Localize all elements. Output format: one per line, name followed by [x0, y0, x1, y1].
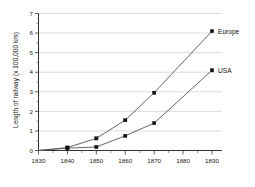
axes: [39, 14, 223, 151]
data-point-usa-1840: [66, 146, 69, 149]
gridlines: [39, 14, 223, 131]
y-tick-label-5: 5: [30, 49, 34, 56]
x-tick-label-1870: 1870: [147, 157, 161, 164]
x-tick-label-1850: 1850: [89, 157, 103, 164]
plot-area: 1830184018501860187018801890 01234567 Eu…: [0, 0, 255, 187]
data-series: [39, 29, 214, 150]
data-point-usa-1870: [152, 121, 155, 124]
y-tick-label-4: 4: [30, 68, 34, 75]
data-point-usa-1850: [95, 145, 98, 148]
series-label-europe: Europe: [218, 28, 240, 36]
data-point-europe-1850: [95, 137, 98, 140]
data-point-europe-1890: [210, 29, 213, 32]
series-line-usa: [39, 70, 213, 150]
y-tick-label-1: 1: [30, 127, 34, 134]
x-tick-label-1860: 1860: [118, 157, 132, 164]
series-labels: EuropeUSA: [218, 28, 240, 74]
series-label-usa: USA: [218, 67, 232, 74]
railway-length-line-chart: Length of railway (x 100,000 km) 1830184…: [0, 0, 255, 187]
data-point-europe-1860: [124, 118, 127, 121]
x-axis-ticks: 1830184018501860187018801890: [32, 151, 220, 165]
data-point-europe-1870: [152, 91, 155, 94]
series-line-europe: [39, 31, 213, 150]
x-tick-label-1840: 1840: [61, 157, 75, 164]
x-tick-label-1880: 1880: [176, 157, 190, 164]
data-point-usa-1860: [124, 134, 127, 137]
data-point-usa-1890: [210, 69, 213, 72]
y-axis-ticks: 01234567: [30, 10, 39, 154]
y-tick-label-2: 2: [30, 108, 34, 115]
x-tick-label-1830: 1830: [32, 157, 46, 164]
y-tick-label-3: 3: [30, 88, 34, 95]
y-tick-label-0: 0: [30, 147, 34, 154]
y-tick-label-6: 6: [30, 29, 34, 36]
y-tick-label-7: 7: [30, 10, 34, 17]
x-tick-label-1890: 1890: [205, 157, 219, 164]
